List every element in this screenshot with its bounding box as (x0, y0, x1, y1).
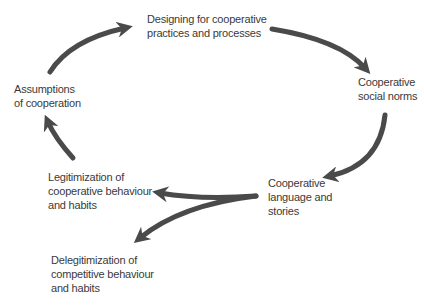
node-designing: Designing for cooperative practices and … (147, 12, 267, 40)
arrow-designing-to-norms (272, 29, 365, 68)
node-delegitimization: Delegitimization of competitive behaviou… (51, 253, 154, 295)
node-legitimization: Legitimization of cooperative behaviour … (48, 170, 152, 212)
arrow-assumptions-to-designing (50, 28, 125, 72)
node-language-stories: Cooperative language and stories (268, 176, 332, 218)
node-assumptions: Assumptions of cooperation (14, 82, 81, 110)
arrow-language-to-delegitimization (140, 196, 256, 238)
arrow-legitimization-to-assumptions (48, 122, 73, 158)
node-social-norms: Cooperative social norms (358, 75, 417, 103)
arrow-norms-to-language (330, 115, 385, 176)
